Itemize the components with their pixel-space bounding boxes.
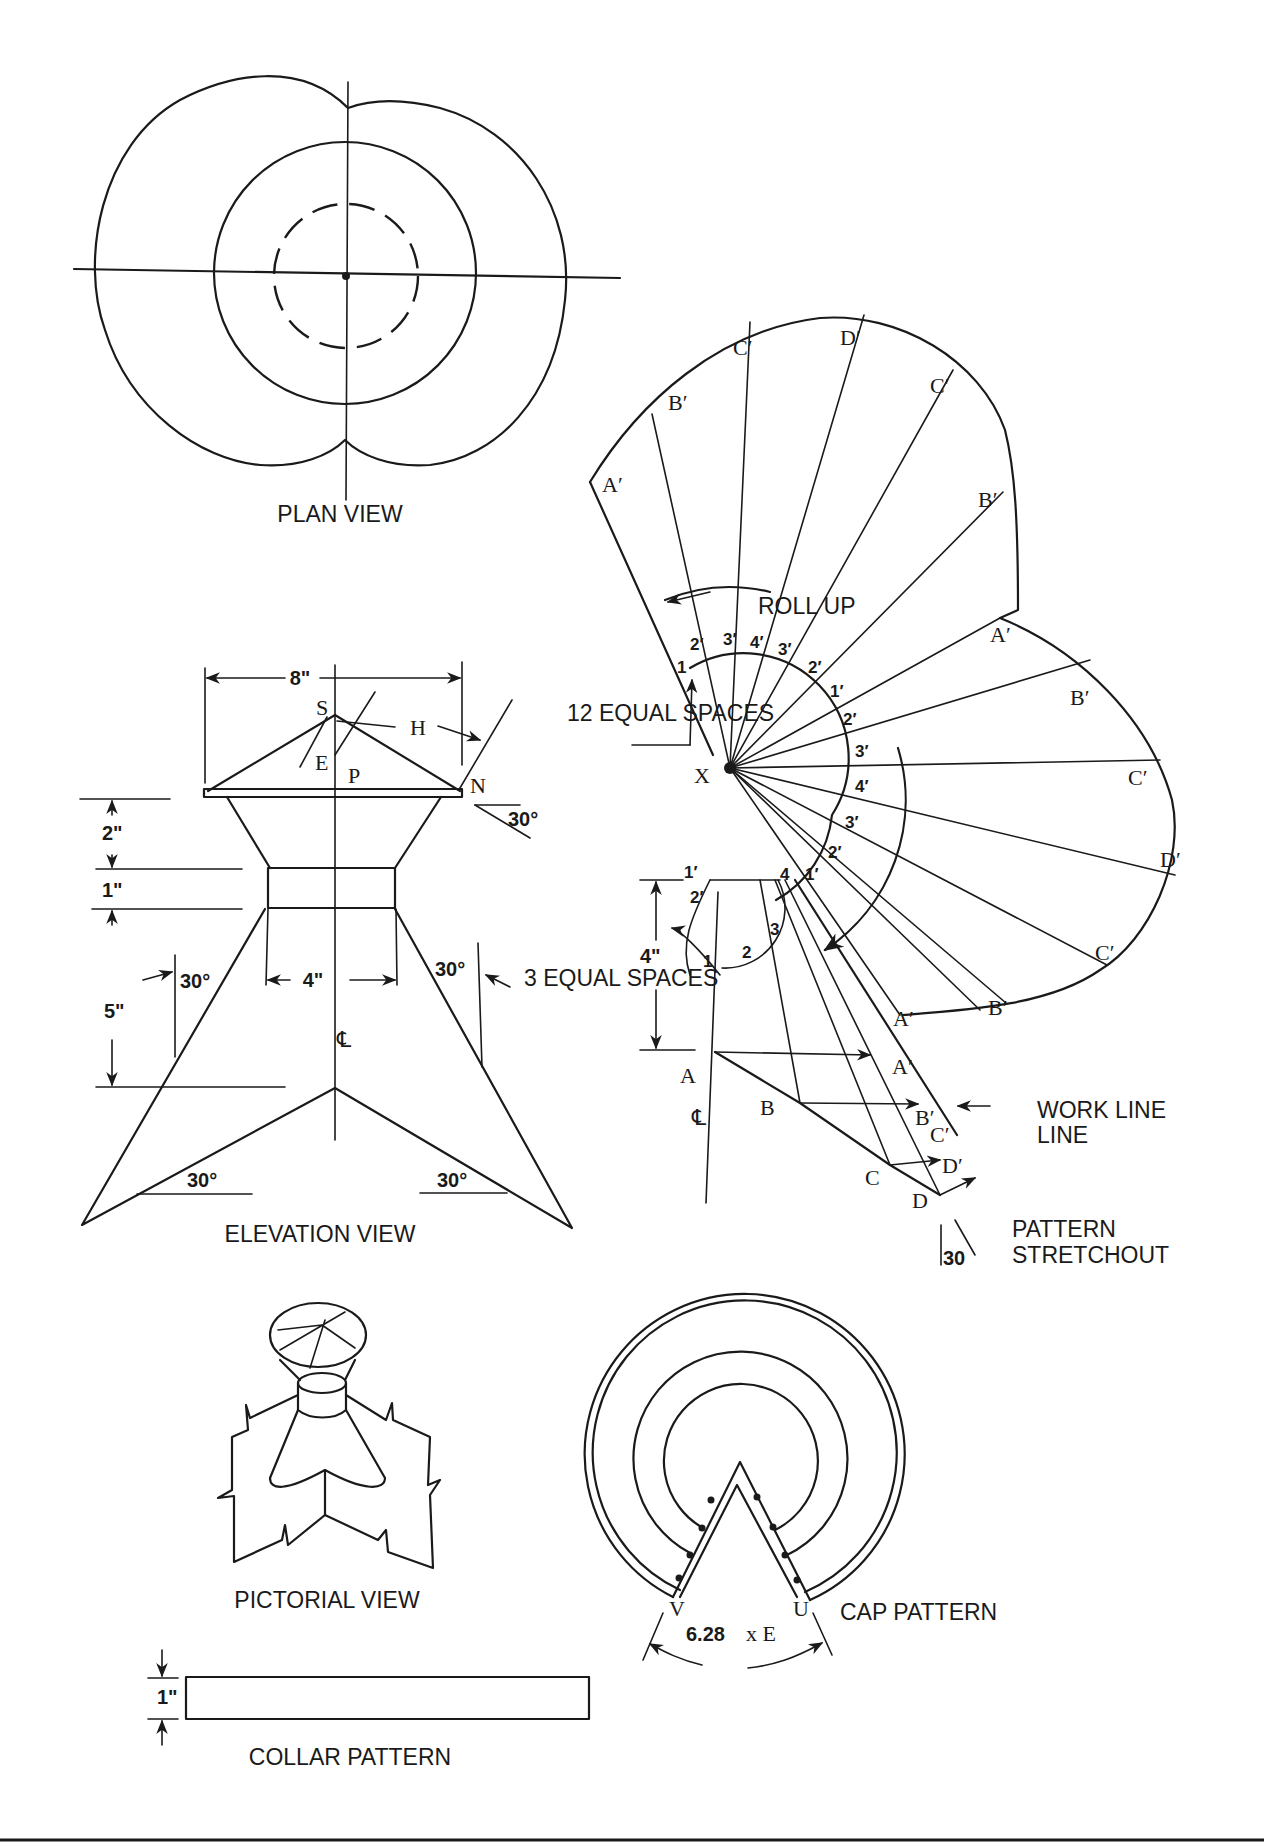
arc-num: 2′: [690, 635, 704, 654]
formula-number: 6.28: [686, 1623, 725, 1645]
small-arc-num: 2: [742, 943, 751, 962]
outer-label: B′: [978, 487, 998, 512]
angle-stretchout: 30: [943, 1247, 965, 1269]
work-point: D′: [942, 1153, 963, 1178]
arc-num: 2′: [808, 658, 822, 677]
elevation-view: 8" S H E P N 30° 4": [80, 662, 718, 1247]
pictorial-view: PICTORIAL VIEW: [218, 1303, 440, 1613]
outer-label: C′: [1095, 940, 1115, 965]
centerline-symbol: ℄: [691, 1105, 707, 1130]
outer-label: B′: [668, 390, 688, 415]
outer-label: C′: [733, 335, 753, 360]
profile-point: A: [680, 1063, 696, 1088]
angle-base-left: 30°: [187, 1169, 217, 1191]
profile-point: B: [760, 1095, 775, 1120]
profile-point: C: [865, 1165, 880, 1190]
note-3-equal-spaces: 3 EQUAL SPACES: [524, 965, 718, 991]
work-point: A′: [893, 1006, 914, 1031]
arc-num: 3′: [723, 630, 737, 649]
profile-point: D: [912, 1188, 928, 1213]
label-roll-up: ROLL UP: [758, 593, 856, 619]
cap-pattern-title: CAP PATTERN: [840, 1599, 997, 1625]
arc-num: 3′: [778, 640, 792, 659]
dim-width-neck: 4": [303, 969, 324, 991]
outer-label: C′: [1128, 765, 1148, 790]
point-X: X: [694, 763, 710, 788]
arc-num: 4′: [855, 777, 869, 796]
arc-num: 1: [677, 658, 686, 677]
outer-label: D′: [1160, 847, 1181, 872]
angle-left-leg: 30°: [180, 970, 210, 992]
point-U: U: [793, 1596, 809, 1621]
pictorial-view-title: PICTORIAL VIEW: [234, 1587, 420, 1613]
collar-pattern-title: COLLAR PATTERN: [249, 1744, 451, 1770]
dim-height-5: 5": [104, 1000, 125, 1022]
centerline-symbol: ℄: [336, 1027, 352, 1052]
small-arc-num: 3: [770, 920, 779, 939]
arc-num: 3′: [855, 742, 869, 761]
point-P: P: [348, 763, 360, 788]
formula-variable: x E: [746, 1621, 776, 1646]
arc-num: 3′: [845, 813, 859, 832]
drawing-sheet: PLAN VIEW 8" S H E P N 30° 4: [0, 0, 1264, 1845]
work-point: C′: [930, 1122, 950, 1147]
outer-label: B′: [988, 995, 1008, 1020]
angle-base-right: 30°: [437, 1169, 467, 1191]
label-work-line-2: LINE: [1037, 1122, 1088, 1148]
label-stretchout: STRETCHOUT: [1012, 1242, 1169, 1268]
pattern-stretchout: X ROLL UP 12 EQUAL SPACES 1 2′ 3′ 4′ 3′ …: [567, 315, 1181, 1269]
elevation-view-title: ELEVATION VIEW: [225, 1221, 416, 1247]
plan-view: PLAN VIEW: [74, 76, 620, 527]
angle-right-leg: 30°: [435, 958, 465, 980]
collar-pattern: 1" COLLAR PATTERN: [148, 1650, 589, 1770]
outer-label: B′: [1070, 685, 1090, 710]
arc-num: 1′: [805, 865, 819, 884]
work-point: A′: [892, 1054, 913, 1079]
dim-height-1: 1": [102, 879, 123, 901]
arc-num: 4′: [750, 633, 764, 652]
point-S: S: [316, 695, 328, 720]
point-V: V: [669, 1596, 685, 1621]
outer-label: D′: [840, 325, 861, 350]
small-arc-num: 1′: [684, 863, 698, 882]
plan-view-title: PLAN VIEW: [277, 501, 403, 527]
dim-collar-height: 1": [157, 1686, 178, 1708]
outer-label: C′: [930, 373, 950, 398]
small-arc-num: 1: [703, 952, 712, 971]
small-arc-num: 2′: [690, 888, 704, 907]
angle-cap: 30°: [508, 808, 538, 830]
label-12-equal-spaces: 12 EQUAL SPACES: [567, 700, 774, 726]
outer-label: A′: [602, 472, 623, 497]
point-H: H: [410, 715, 426, 740]
cap-pattern: V U 6.28 x E CAP PATTERN: [585, 1294, 998, 1668]
label-pattern: PATTERN: [1012, 1216, 1116, 1242]
dim-width-top: 8": [290, 667, 311, 689]
arc-num: 2′: [828, 843, 842, 862]
dim-4: 4": [640, 945, 661, 967]
label-work-line: WORK LINE: [1037, 1097, 1166, 1123]
arc-num: 1′: [830, 682, 844, 701]
outer-label: A′: [990, 622, 1011, 647]
point-E: E: [315, 750, 328, 775]
arc-num: 2′: [843, 710, 857, 729]
dim-height-2: 2": [102, 822, 123, 844]
point-N: N: [470, 773, 486, 798]
